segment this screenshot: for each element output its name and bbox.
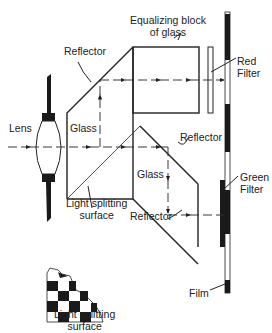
label-green-filter: Green Filter — [240, 171, 269, 195]
label-light-splitting-surface: Light splitting surface — [66, 197, 127, 221]
film-strip — [225, 12, 230, 293]
label-reflector-bottom: Reflector — [130, 210, 172, 222]
light-splitting-diagonal — [67, 126, 140, 199]
label-reflector-top: Reflector — [64, 45, 106, 57]
label-reflector-mid: Reflector — [180, 131, 222, 143]
label-film: Film — [189, 287, 209, 299]
lens-icon — [36, 74, 61, 222]
label-glass-bottom: Glass — [137, 168, 164, 180]
label-glass-top: Glass — [70, 122, 97, 134]
label-checker-caption: Light splitting surface — [54, 308, 115, 332]
optics-diagram — [0, 0, 272, 333]
label-equalizing-block: Equalizing block of glass — [130, 14, 206, 38]
label-lens: Lens — [9, 122, 32, 134]
green-filter — [220, 180, 225, 247]
label-red-filter: Red Filter — [237, 55, 260, 79]
leader-lines — [78, 33, 238, 290]
